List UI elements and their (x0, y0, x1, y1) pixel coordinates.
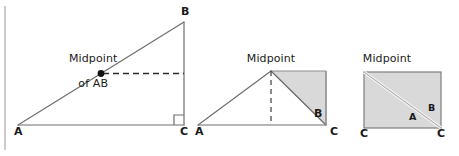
left-vertex-label-a: A (14, 126, 23, 139)
left-caption-line1: Midpoint (69, 52, 117, 65)
right-vertex-label-c-left: C (360, 128, 368, 141)
middle-vertex-label-a: A (195, 126, 204, 139)
right-vertex-label-a: A (409, 112, 417, 123)
right-angle-marker-c (174, 115, 184, 125)
segment-a-apex (198, 71, 271, 125)
left-caption-line2: of AB (78, 77, 108, 90)
right-vertex-label-b: B (428, 103, 435, 114)
left-midpoint-caption: Midpoint of AB (48, 40, 124, 103)
middle-vertex-label-b: B (314, 108, 323, 121)
right-diagram-group (364, 72, 441, 128)
left-vertex-label-c: C (180, 126, 188, 139)
right-midpoint-caption: Midpoint (354, 53, 420, 66)
right-vertex-label-c-right: C (437, 128, 445, 141)
middle-diagram-group (198, 71, 326, 125)
left-vertex-label-b: B (181, 6, 190, 19)
middle-vertex-label-c: C (330, 126, 338, 139)
geometry-figure-panel-set: Midpoint of AB A B C Midpoint A B C Midp… (0, 0, 459, 156)
middle-midpoint-caption: Midpoint (238, 53, 304, 66)
